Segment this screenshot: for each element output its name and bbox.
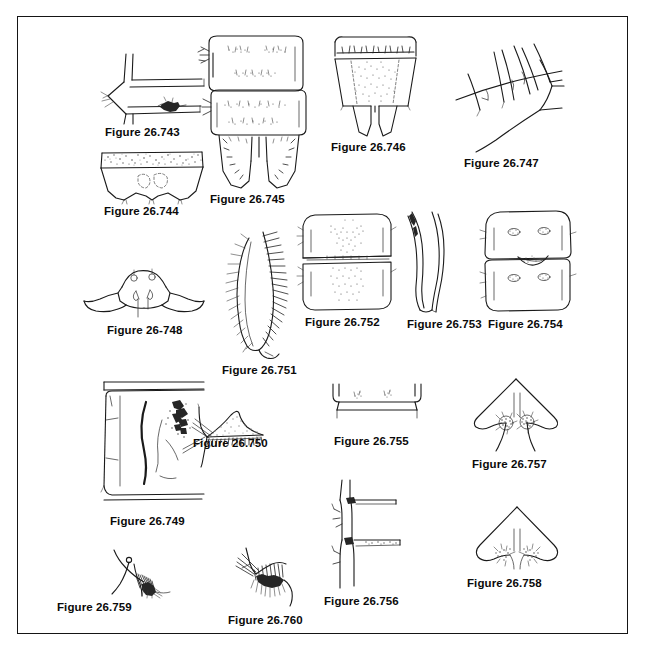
figure-26-755-drawing: [327, 382, 427, 430]
figure-26-756-label: Figure 26.756: [324, 595, 399, 607]
figure-26-755-label: Figure 26.755: [334, 435, 409, 447]
figure-26-743-label: Figure 26.743: [105, 126, 180, 138]
figure-26-754-drawing: [478, 208, 578, 314]
figure-26-745-drawing: [195, 33, 311, 191]
figure-26-753-drawing: [406, 210, 456, 314]
figure-26-747-label: Figure 26.747: [464, 157, 539, 169]
figure-plate: Figure 26.743: [0, 0, 645, 650]
figure-26-748-label: Figure 26-748: [107, 324, 182, 336]
figure-26-744-label: Figure 26.744: [104, 205, 179, 217]
figure-26-751-label: Figure 26.751: [222, 364, 297, 376]
figure-26-754-label: Figure 26.754: [488, 318, 563, 330]
figure-26-759-drawing: [108, 548, 188, 598]
figure-26-746-label: Figure 26.746: [331, 141, 406, 153]
figure-26-749-label: Figure 26.749: [110, 515, 185, 527]
figure-26-759-label: Figure 26.759: [57, 601, 132, 613]
figure-26-744-drawing: [96, 148, 208, 204]
figure-26-752-drawing: [297, 212, 397, 314]
figure-26-748-drawing: [82, 265, 206, 321]
figure-26-758-drawing: [470, 505, 564, 573]
figure-26-743-drawing: [100, 52, 208, 124]
figure-26-750-drawing: [181, 405, 281, 467]
figure-26-760-drawing: [228, 546, 314, 608]
figure-26-757-drawing: [466, 377, 566, 453]
figure-26-750-label: Figure 26.750: [193, 437, 268, 449]
figure-26-745-label: Figure 26.745: [210, 193, 285, 205]
figure-26-760-label: Figure 26.760: [228, 614, 303, 626]
figure-26-756-drawing: [330, 478, 414, 590]
figure-26-752-label: Figure 26.752: [305, 316, 380, 328]
figure-26-747-drawing: [452, 38, 564, 154]
figure-26-753-label: Figure 26.753: [407, 318, 482, 330]
figure-26-758-label: Figure 26.758: [467, 577, 542, 589]
figure-26-757-label: Figure 26.757: [472, 458, 547, 470]
figure-26-751-drawing: [225, 230, 297, 360]
figure-26-746-drawing: [325, 34, 425, 138]
